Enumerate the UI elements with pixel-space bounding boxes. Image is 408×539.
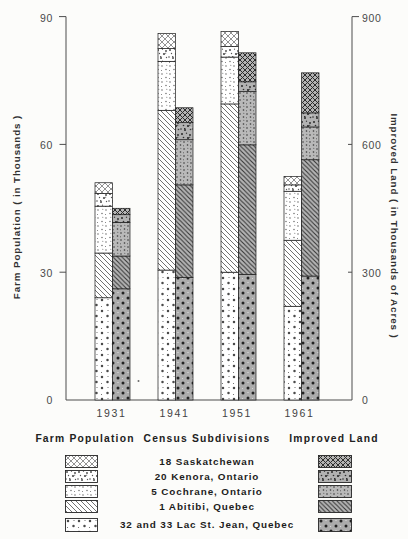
bar-segment-1961-farm-sask (284, 176, 302, 185)
bar-segment-1931-farm-abitibi (95, 253, 113, 298)
right-axis: 900 600 300 0 Improved Land ( in Thousan… (348, 12, 400, 406)
bar-segment-1941-farm-cochrane (158, 61, 176, 110)
bar-segment-1961-land-kenora (302, 113, 320, 127)
left-tick-90: 90 (40, 12, 53, 24)
bar-segment-1961-land-lacstjean (302, 276, 320, 400)
bar-segment-1931-farm-lacstjean (95, 298, 113, 400)
bar-segment-1941-land-abitibi (176, 185, 194, 277)
legend-header-census-subdivisions: Census Subdivisions (144, 433, 271, 444)
left-axis-title: Farm Population ( in Thousands ) (11, 115, 22, 299)
bar-segment-1951-land-lacstjean (239, 274, 257, 400)
year-label-1961: 1961 (285, 407, 315, 419)
bar-segment-1961-land-abitibi (302, 160, 320, 276)
bar-segment-1961-farm-abitibi (284, 240, 302, 306)
left-tick-60: 60 (40, 139, 53, 151)
legend-item-abitibi: 1 Abitibi, Quebec (159, 501, 255, 512)
year-label-1931: 1931 (97, 407, 127, 419)
x-axis-labels: 1931 1941 1951 1961 (97, 407, 315, 419)
bar-segment-1961-land-cochrane (302, 127, 320, 160)
swatch-land-fine-dots (318, 485, 352, 498)
bar-segment-1951-farm-cochrane (221, 57, 239, 104)
bar-segment-1951-land-kenora (239, 82, 257, 92)
right-tick-600: 600 (362, 139, 381, 151)
bar-segment-1941-farm-kenora (158, 49, 176, 62)
bar-segment-1931-land-sask (113, 208, 131, 214)
bar-segment-1961-land-sask (302, 73, 320, 113)
bar-segment-1941-land-cochrane (176, 140, 194, 185)
swatch-land-diagonal-hatch (318, 500, 352, 513)
right-tick-0: 0 (362, 394, 368, 406)
bar-segment-1931-land-lacstjean (113, 289, 131, 400)
bar-segment-1951-farm-abitibi (221, 104, 239, 272)
left-tick-30: 30 (40, 267, 53, 279)
swatch-farm-coarse-dots (65, 518, 98, 532)
bar-segment-1941-land-sask (176, 108, 194, 123)
bar-segment-1951-land-cochrane (239, 92, 257, 145)
bar-segment-1941-farm-sask (158, 34, 176, 49)
right-tick-900: 900 (362, 12, 381, 24)
swatch-farm-diagonal-hatch (65, 500, 98, 513)
year-label-1941: 1941 (160, 407, 190, 419)
legend-header-farm-population: Farm Population (35, 433, 134, 444)
swatch-land-diamond-crosshatch (318, 455, 352, 468)
bar-segment-1931-farm-cochrane (95, 206, 113, 253)
swatch-land-coarse-dots (318, 518, 352, 532)
right-axis-line (352, 17, 359, 400)
left-tick-0: 0 (47, 394, 53, 406)
swatch-farm-irregular-speckle (65, 470, 98, 483)
left-axis: 90 60 30 0 Farm Population ( in Thousand… (11, 12, 66, 406)
swatch-land-irregular-speckle (318, 470, 352, 483)
year-label-1951: 1951 (222, 407, 252, 419)
right-tick-300: 300 (362, 267, 381, 279)
bar-segment-1941-land-kenora (176, 123, 194, 140)
right-axis-title: Improved Land ( in Thousands of Acres ) (389, 113, 400, 338)
bar-segment-1961-farm-kenora (284, 185, 302, 191)
bar-segment-1951-farm-kenora (221, 46, 239, 57)
swatch-farm-diamond-crosshatch (65, 455, 98, 468)
legend-item-kenora: 20 Kenora, Ontario (155, 471, 260, 482)
stray-print-mark (138, 380, 140, 382)
bar-segment-1931-land-kenora (113, 215, 131, 223)
swatch-farm-fine-dots (65, 485, 98, 498)
legend-item-saskatchewan: 18 Saskatchewan (159, 456, 254, 467)
bar-segment-1951-land-sask (239, 53, 257, 82)
bar-segment-1951-farm-sask (221, 32, 239, 47)
legend: Farm Population Census Subdivisions Impr… (0, 430, 408, 539)
bars-layer (95, 32, 319, 400)
bar-segment-1941-land-lacstjean (176, 277, 194, 400)
left-axis-line (59, 17, 66, 400)
bar-segment-1931-farm-kenora (95, 193, 113, 206)
legend-item-cochrane: 5 Cochrane, Ontario (151, 486, 262, 497)
bar-segment-1951-land-abitibi (239, 145, 257, 275)
bar-segment-1931-land-cochrane (113, 222, 131, 256)
bar-segment-1931-land-abitibi (113, 256, 131, 289)
bar-segment-1931-farm-sask (95, 183, 113, 194)
right-axis-ticks (348, 144, 352, 272)
paired-stacked-bar-chart: 90 60 30 0 Farm Population ( in Thousand… (0, 0, 408, 430)
bar-segment-1941-farm-lacstjean (158, 270, 176, 400)
legend-header-improved-land: Improved Land (289, 433, 378, 444)
bar-segment-1961-farm-lacstjean (284, 306, 302, 400)
left-axis-ticks (60, 144, 67, 272)
bar-segment-1961-farm-cochrane (284, 191, 302, 240)
bar-segment-1951-farm-lacstjean (221, 272, 239, 400)
legend-item-lac-st-jean: 32 and 33 Lac St. Jean, Quebec (120, 519, 294, 530)
bar-segment-1941-farm-abitibi (158, 110, 176, 270)
